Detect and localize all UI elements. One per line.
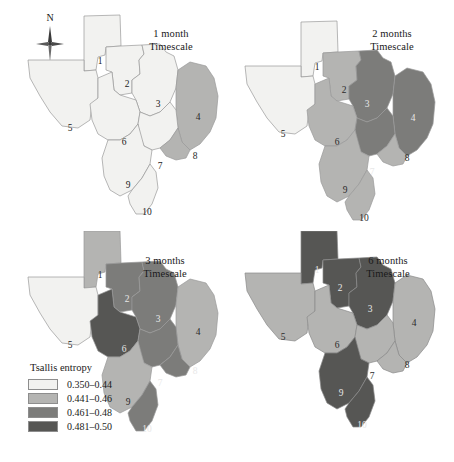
legend-label-class-4: 0.481–0.50 [67, 421, 112, 432]
panel-title-1-month: 1 month Timescale [128, 28, 214, 53]
panel-title-line2: Timescale [349, 41, 435, 54]
panel-title-line2: Timescale [128, 41, 214, 54]
panel-title-line1: 2 months [349, 28, 435, 41]
panel-6-months: 6 months Timescale 1 2 3 4 5 6 7 8 9 10 [227, 231, 454, 462]
legend-swatch-class-4 [28, 421, 58, 432]
region-4-shape [176, 279, 218, 367]
legend-swatch-class-2 [28, 393, 58, 404]
panel-1-month: 1 month Timescale 1 2 3 4 5 6 7 8 9 10 [0, 0, 227, 231]
legend-label-class-3: 0.461–0.48 [67, 407, 112, 418]
panel-title-line1: 6 months [345, 255, 431, 268]
figure-tsallis-entropy-maps: N 1 month [0, 0, 454, 462]
panel-title-line2: Timescale [122, 268, 208, 281]
panel-2-months: 2 months Timescale 1 2 3 4 5 6 7 8 9 10 [227, 0, 454, 231]
region-4-shape [393, 68, 435, 156]
legend-swatch-class-3 [28, 407, 58, 418]
panel-title-line1: 1 month [128, 28, 214, 41]
legend-item: 0.350–0.44 [28, 378, 168, 391]
panel-title-line2: Timescale [345, 268, 431, 281]
panel-title-6-months: 6 months Timescale [345, 255, 431, 280]
legend-title: Tsallis entropy [30, 362, 168, 373]
region-4-shape [176, 62, 218, 150]
legend-label-class-1: 0.350–0.44 [67, 379, 112, 390]
legend-label-class-2: 0.441–0.46 [67, 393, 112, 404]
legend-item: 0.461–0.48 [28, 406, 168, 419]
panel-title-line1: 3 months [122, 255, 208, 268]
panel-title-2-months: 2 months Timescale [349, 28, 435, 53]
region-4-shape [393, 275, 435, 363]
panel-title-3-months: 3 months Timescale [122, 255, 208, 280]
legend: Tsallis entropy 0.350–0.44 0.441–0.46 0.… [28, 362, 168, 434]
legend-item: 0.481–0.50 [28, 420, 168, 433]
legend-swatch-class-1 [28, 379, 58, 390]
legend-item: 0.441–0.46 [28, 392, 168, 405]
